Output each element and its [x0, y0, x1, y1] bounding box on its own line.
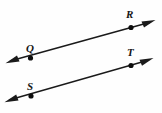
- point-label-q: Q: [26, 43, 34, 54]
- line-st-start-arrowhead-icon: [5, 95, 19, 103]
- point-label-r: R: [126, 9, 133, 20]
- point-r-dot: [128, 25, 133, 30]
- point-label-t: T: [127, 47, 134, 58]
- line-qr-end-arrowhead-icon: [142, 20, 156, 28]
- line-st-end-arrowhead-icon: [140, 58, 154, 66]
- point-label-s: S: [27, 81, 33, 92]
- point-s-dot: [28, 93, 33, 98]
- geometry-figure: Q R S T: [0, 0, 162, 113]
- point-t-dot: [128, 63, 133, 68]
- parallel-lines-diagram: [0, 0, 162, 113]
- line-qr-start-arrowhead-icon: [6, 56, 20, 64]
- point-q-dot: [28, 55, 33, 60]
